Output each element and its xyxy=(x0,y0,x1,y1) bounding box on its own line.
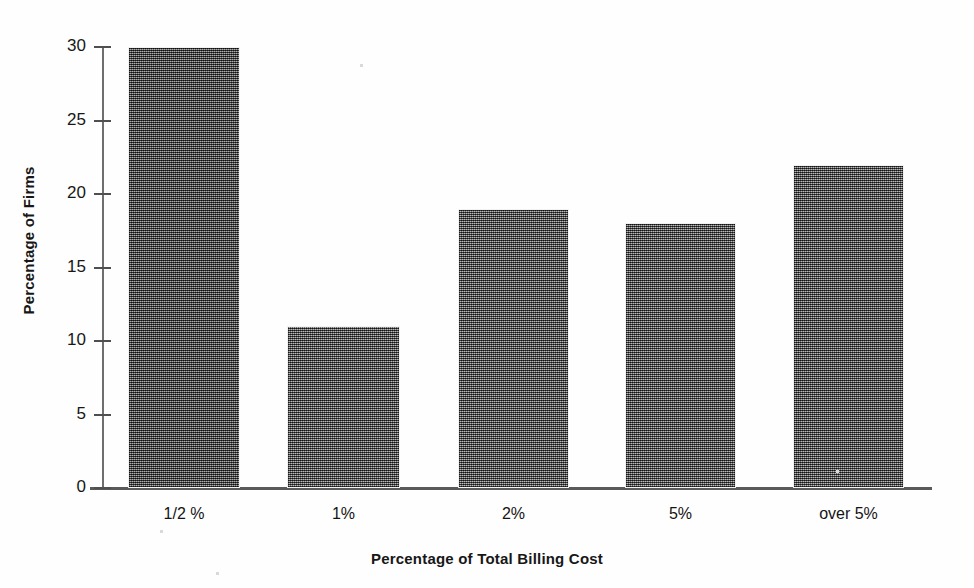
x-axis-tick-label: 1% xyxy=(257,505,430,523)
bar xyxy=(793,165,904,488)
y-axis-tick-label: 15 xyxy=(40,257,86,277)
scan-speckle xyxy=(836,470,839,473)
y-axis-title: Percentage of Firms xyxy=(20,141,37,341)
y-axis-tick-label: 30 xyxy=(40,36,86,56)
x-axis-tick-label: 2% xyxy=(428,505,599,523)
x-axis-tick-label: 5% xyxy=(595,505,766,523)
plot-area xyxy=(102,47,930,488)
bar xyxy=(458,209,569,488)
bar xyxy=(128,47,240,488)
x-axis-tick-label: over 5% xyxy=(763,505,934,523)
bar xyxy=(625,223,736,488)
x-axis-title: Percentage of Total Billing Cost xyxy=(0,550,974,567)
bar-chart: Percentage of Firms 051015202530 1/2 %1%… xyxy=(0,0,974,588)
y-axis-tick-label: 20 xyxy=(40,183,86,203)
y-axis-tick-label: 10 xyxy=(40,330,86,350)
scan-speckle xyxy=(160,530,163,533)
y-axis-tick-label: 0 xyxy=(40,477,86,497)
y-axis-tick-label: 25 xyxy=(40,110,86,130)
y-axis-tick-label: 5 xyxy=(40,404,86,424)
bar xyxy=(287,326,400,488)
x-axis-tick-label: 1/2 % xyxy=(98,505,270,523)
scan-speckle xyxy=(216,572,219,575)
scan-speckle xyxy=(360,64,363,67)
